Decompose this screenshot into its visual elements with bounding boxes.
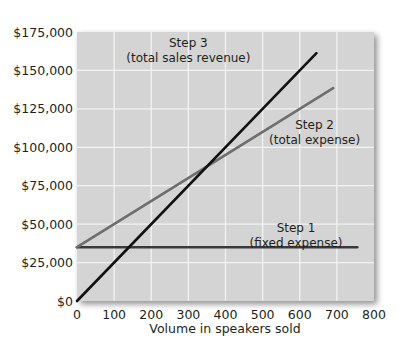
x-tick-label: 500 <box>251 307 275 322</box>
y-axis-ticks: $0$25,000$50,000$75,000$100,000$125,000$… <box>13 25 73 309</box>
y-tick-label: $175,000 <box>13 25 73 40</box>
y-tick-label: $125,000 <box>13 101 73 116</box>
y-tick-label: $0 <box>57 294 73 309</box>
breakeven-chart: $0$25,000$50,000$75,000$100,000$125,000$… <box>0 0 404 353</box>
x-tick-label: 400 <box>214 307 238 322</box>
annotation-title: Step 1 <box>277 221 316 235</box>
annotation-title: Step 3 <box>169 36 208 50</box>
y-tick-label: $75,000 <box>21 178 73 193</box>
x-tick-label: 700 <box>325 307 349 322</box>
x-tick-label: 200 <box>139 307 163 322</box>
y-tick-label: $150,000 <box>13 63 73 78</box>
x-tick-label: 0 <box>73 307 81 322</box>
x-tick-label: 100 <box>102 307 126 322</box>
annotation-subtitle: (fixed expense) <box>250 236 343 250</box>
x-tick-label: 300 <box>176 307 200 322</box>
x-axis-ticks: 0100200300400500600700800 <box>73 307 386 322</box>
x-tick-label: 600 <box>288 307 312 322</box>
x-tick-label: 800 <box>362 307 386 322</box>
y-tick-label: $50,000 <box>21 217 73 232</box>
x-axis-label: Volume in speakers sold <box>149 321 300 336</box>
y-tick-label: $100,000 <box>13 140 73 155</box>
y-tick-label: $25,000 <box>21 255 73 270</box>
annotation-subtitle: (total sales revenue) <box>126 51 250 65</box>
annotation-title: Step 2 <box>295 118 334 132</box>
annotation-subtitle: (total expense) <box>269 133 360 147</box>
